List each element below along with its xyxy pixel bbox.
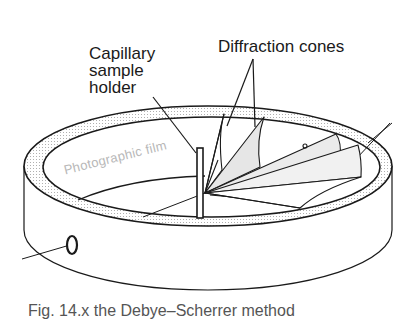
label-line: sample xyxy=(89,62,155,79)
xray-beam-inside xyxy=(143,193,205,217)
film-lower-edge xyxy=(78,176,205,200)
collimator-hole xyxy=(67,236,77,254)
figure-caption-cut-off: Fig. 14.x the Debye–Scherrer method xyxy=(28,302,295,319)
xray-beam-out-far xyxy=(368,123,392,143)
label-diffraction-cones: Diffraction cones xyxy=(218,38,344,55)
label-capillary-sample-holder: Capillary sample holder xyxy=(89,45,155,96)
label-line: holder xyxy=(89,79,155,96)
capillary-sample-holder xyxy=(197,148,203,218)
label-line: Capillary xyxy=(89,45,155,62)
